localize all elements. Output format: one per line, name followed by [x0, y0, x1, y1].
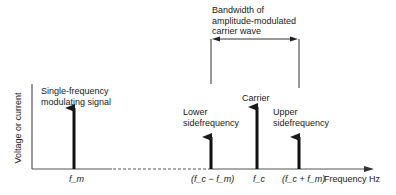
- x-axis-label: Frequency Hz: [324, 174, 380, 185]
- lower-sidefrequency-label-line-1: Lower: [183, 107, 239, 118]
- carrier-label: Carrier: [242, 93, 270, 104]
- bandwidth-label: Bandwidth of amplitude-modulated carrier…: [212, 5, 296, 37]
- am-spectrum-diagram: Bandwidth of amplitude-modulated carrier…: [0, 0, 396, 195]
- bandwidth-label-line-2: amplitude-modulated: [212, 16, 296, 27]
- x-axis-arrow-icon: [364, 166, 374, 172]
- upper-sidefrequency-label-line-2: sidefrequency: [273, 118, 329, 129]
- upper-sidefrequency-label-line-1: Upper: [273, 107, 329, 118]
- tick-fm: f_m: [69, 174, 84, 185]
- bandwidth-left-arrow-icon: [212, 37, 220, 42]
- y-axis-label: Voltage or current: [13, 92, 23, 163]
- tick-fc-minus-fm: (f_c − f_m): [191, 174, 234, 185]
- lower-sidefrequency-label: Lower sidefrequency: [183, 107, 239, 128]
- modulating-signal-label: Single-frequency modulating signal: [41, 86, 111, 107]
- bandwidth-label-line-3: carrier wave: [212, 26, 296, 37]
- lower-sidefrequency-label-line-2: sidefrequency: [183, 118, 239, 129]
- tick-fc-plus-fm: (f_c + f_m): [282, 174, 325, 185]
- bandwidth-label-line-1: Bandwidth of: [212, 5, 296, 16]
- tick-fc: f_c: [253, 174, 265, 185]
- carrier-label-line-1: Carrier: [242, 93, 270, 104]
- upper-sidefrequency-label: Upper sidefrequency: [273, 107, 329, 128]
- modulating-signal-label-line-2: modulating signal: [41, 97, 111, 108]
- modulating-signal-label-line-1: Single-frequency: [41, 86, 111, 97]
- bandwidth-right-arrow-icon: [290, 37, 298, 42]
